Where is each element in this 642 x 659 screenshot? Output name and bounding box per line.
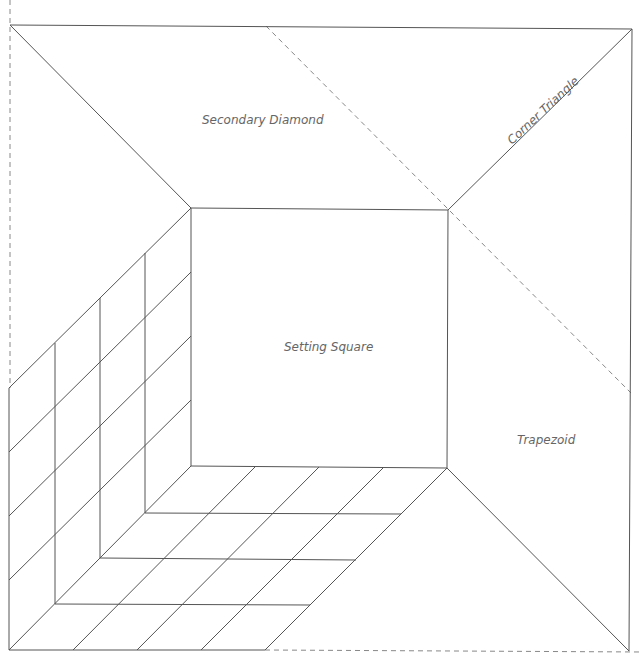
outer-right-edge <box>629 29 632 651</box>
bottom-dashed-guide <box>265 650 642 652</box>
top-left-diagonal <box>10 25 191 208</box>
left-wall-grid <box>9 208 191 650</box>
quilt-block-diagram: Secondary Diamond Setting Square Trapezo… <box>0 0 642 659</box>
label-trapezoid: Trapezoid <box>517 433 576 447</box>
setting-square <box>191 208 448 468</box>
bottom-right-diagonal <box>447 468 629 651</box>
label-secondary-diamond: Secondary Diamond <box>202 113 324 127</box>
label-corner-triangle: Corner Triangle <box>504 74 581 147</box>
floor-grid <box>9 467 447 650</box>
outer-top-edge <box>10 25 632 29</box>
label-setting-square: Setting Square <box>284 340 373 354</box>
